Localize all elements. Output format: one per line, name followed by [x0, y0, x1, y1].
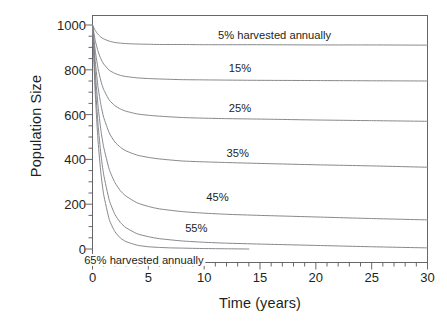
x-tick-label: 15 [240, 270, 280, 285]
curves-layer [93, 25, 428, 249]
x-tick-label: 5 [128, 270, 168, 285]
x-axis-title: Time (years) [92, 295, 428, 311]
curve-35-percent [93, 25, 428, 167]
x-tick-label: 0 [73, 270, 113, 285]
plot-frame [93, 16, 428, 263]
y-tick-label: 0 [46, 242, 86, 257]
y-axis-title: Population Size [28, 46, 44, 206]
x-tick-label: 10 [184, 270, 224, 285]
y-tick-label: 200 [46, 197, 86, 212]
curve-label-65-percent: 65% harvested annually [82, 254, 205, 266]
curve-55-percent [93, 25, 428, 248]
y-tick-label: 800 [46, 62, 86, 77]
caption-fragment [10, 316, 310, 324]
curve-label-45-percent: 45% [204, 191, 230, 203]
curve-45-percent [93, 25, 428, 220]
x-tick-labels: 051015202530 [0, 270, 447, 294]
curve-label-5-percent: 5% harvested annually [216, 29, 333, 41]
curve-label-35-percent: 35% [224, 147, 250, 159]
x-tick-label: 30 [408, 270, 447, 285]
axes-layer [86, 16, 428, 270]
y-tick-label: 1000 [46, 18, 86, 33]
curve-label-15-percent: 15% [227, 62, 253, 74]
curve-label-55-percent: 55% [183, 222, 209, 234]
y-tick-label: 400 [46, 152, 86, 167]
y-tick-label: 600 [46, 107, 86, 122]
x-tick-label: 25 [352, 270, 392, 285]
x-tick-label: 20 [296, 270, 336, 285]
curve-label-25-percent: 25% [227, 102, 253, 114]
population-harvest-chart: 02004006008001000 051015202530 Populatio… [0, 0, 447, 325]
